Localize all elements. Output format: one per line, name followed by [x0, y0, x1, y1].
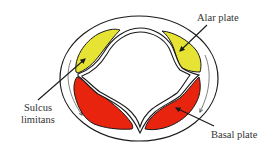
sulcus-limitans-label-line2: limitans — [21, 114, 55, 125]
neural-tube-cross-section-diagram: Alar plate Sulcus limitans Basal plate — [0, 0, 276, 155]
sulcus-limitans-label-line1: Sulcus — [24, 102, 52, 113]
alar-plate-label: Alar plate — [197, 12, 239, 23]
basal-plate-label: Basal plate — [211, 129, 258, 140]
